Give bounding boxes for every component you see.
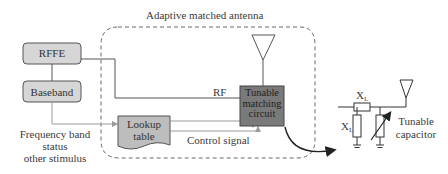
lookup-table-label: Lookup table <box>118 118 170 142</box>
shunt-inductor-symbol: X <box>341 120 349 132</box>
baseband-to-lookup-line <box>52 102 117 124</box>
baseband-label: Baseband <box>23 86 81 98</box>
antenna-icon <box>400 80 413 107</box>
series-inductor-label: XL <box>356 89 368 105</box>
antenna-icon <box>252 35 275 86</box>
tmc-line1: Tunable <box>240 88 284 99</box>
control-signal-line-2 <box>170 127 258 131</box>
shunt-inductor-subscript: L <box>349 126 353 134</box>
tc-line1: Tunable <box>388 115 444 128</box>
series-inductor-subscript: L <box>364 95 368 103</box>
lookup-line1: Lookup <box>118 118 170 130</box>
tunable-capacitor <box>376 115 384 137</box>
series-inductor-symbol: X <box>356 89 364 101</box>
tunable-capacitor-label: Tunable capacitor <box>388 115 444 141</box>
inputs-label: Frequency band status other stimulus <box>0 128 110 164</box>
inputs-line3: other stimulus <box>0 152 110 164</box>
inputs-line1: Frequency band <box>0 128 110 140</box>
tc-line2: capacitor <box>388 128 444 141</box>
ground-icon <box>376 145 384 148</box>
diagram-title: Adaptive matched antenna <box>146 9 263 21</box>
tunable-matching-circuit-label: Tunable matching circuit <box>240 88 284 120</box>
rf-label: RF <box>213 86 226 98</box>
rffe-label: RFFE <box>23 47 81 59</box>
detail-arrow <box>285 127 334 152</box>
shunt-inductor-label: XL <box>341 120 353 136</box>
lookup-line2: table <box>118 130 170 142</box>
control-signal-label: Control signal <box>187 134 250 146</box>
ground-icon <box>353 145 361 148</box>
inputs-line2: status <box>0 140 110 152</box>
shunt-inductor <box>353 115 361 137</box>
tmc-line3: circuit <box>240 109 284 120</box>
